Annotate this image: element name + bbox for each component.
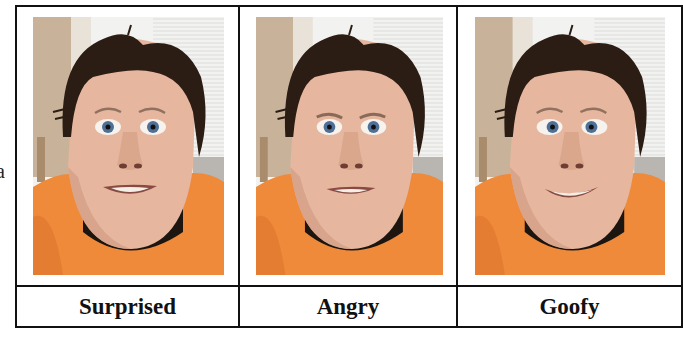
portrait-illustration	[475, 17, 665, 275]
label-goofy: Goofy	[458, 287, 681, 326]
label-angry: Angry	[240, 287, 458, 326]
photo-surprised	[33, 17, 224, 275]
label-surprised: Surprised	[17, 287, 240, 326]
expression-comparison-table: Surprised Angry Goofy	[15, 5, 683, 328]
photo-cell-goofy	[458, 7, 681, 285]
photo-angry	[256, 17, 443, 275]
photo-goofy	[475, 17, 665, 275]
label-row: Surprised Angry Goofy	[17, 285, 681, 326]
cropped-margin-text: a	[0, 160, 5, 183]
portrait-illustration	[256, 17, 443, 275]
photo-cell-angry	[240, 7, 458, 285]
portrait-illustration	[33, 17, 224, 275]
photo-cell-surprised	[17, 7, 240, 285]
